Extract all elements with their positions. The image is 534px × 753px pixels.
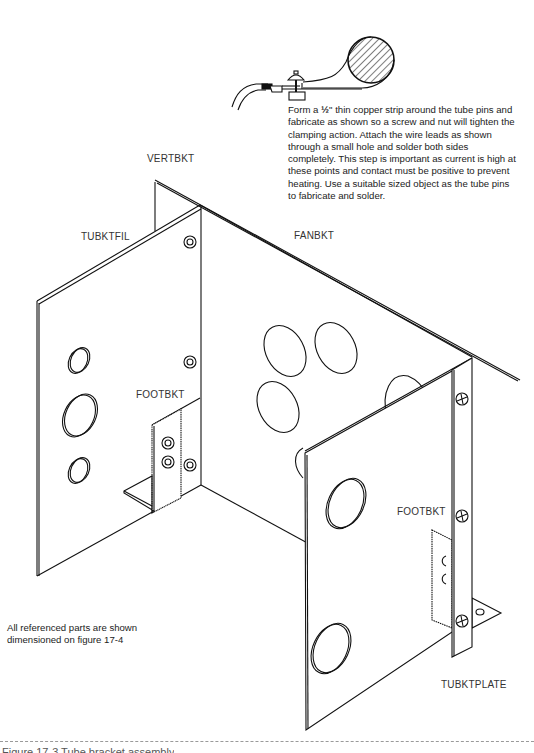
fan-hole — [249, 374, 308, 440]
fan-hole — [307, 315, 366, 381]
footbkt-left-part — [124, 398, 200, 513]
reference-note-line1: All referenced parts are shown — [7, 622, 207, 634]
clamp-detail — [232, 37, 394, 110]
panel-hole — [58, 389, 104, 442]
label-tubktfil: TUBKTFIL — [81, 231, 130, 242]
screw-icon — [288, 75, 304, 80]
nut-icon — [289, 92, 305, 100]
figure-caption: Figure 17-3 Tube bracket assembly — [2, 745, 174, 753]
nut-icon — [184, 236, 196, 471]
label-tubktplate: TUBKTPLATE — [441, 679, 507, 690]
panel-hole — [56, 390, 102, 443]
reference-note-line2: dimensioned on figure 17-4 — [7, 634, 207, 646]
reference-note: All referenced parts are shown dimension… — [7, 622, 207, 647]
clamp-instructions-fraction: ½ — [321, 104, 329, 115]
label-footbkt-left: FOOTBKT — [136, 389, 185, 400]
clamp-instructions: Form a ½" thin copper strip around the t… — [288, 104, 518, 202]
clamp-instructions-prefix: Form a — [288, 104, 321, 115]
label-fanbkt: FANBKT — [294, 230, 334, 241]
fan-hole — [295, 448, 303, 478]
footer-divider — [0, 741, 534, 742]
clamp-instructions-body: " thin copper strip around the tube pins… — [288, 104, 516, 201]
fan-hole — [256, 318, 315, 384]
label-vertbkt: VERTBKT — [147, 153, 194, 164]
tubktplate-part — [304, 358, 501, 730]
label-footbkt-right: FOOTBKT — [397, 506, 446, 517]
